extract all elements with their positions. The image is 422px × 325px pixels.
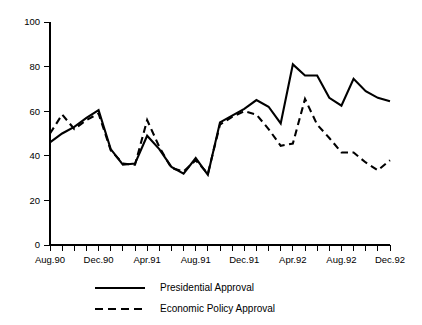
data-series-layer [50, 64, 390, 174]
y-axis: 020406080100 [24, 16, 50, 250]
x-tick-label: Apr.91 [133, 254, 160, 265]
y-tick-label: 100 [24, 16, 40, 27]
approval-trend-chart: 020406080100 Aug.90Dec.90Apr.91Aug.91Dec… [0, 0, 422, 325]
y-tick-label: 80 [29, 61, 40, 72]
x-tick-label: Dec.90 [84, 254, 114, 265]
x-tick-label: Aug.90 [35, 254, 65, 265]
legend-label-economic-policy-approval: Economic Policy Approval [160, 303, 275, 314]
y-tick-label: 60 [29, 106, 40, 117]
x-tick-label: Dec.92 [375, 254, 405, 265]
legend-label-presidential-approval: Presidential Approval [160, 282, 254, 293]
y-tick-label: 0 [35, 239, 40, 250]
chart-legend: Presidential ApprovalEconomic Policy App… [95, 282, 275, 314]
y-axis-ticks: 020406080100 [24, 16, 50, 250]
y-tick-label: 20 [29, 195, 40, 206]
series-line-presidential-approval [50, 64, 390, 174]
x-tick-label: Aug.91 [181, 254, 211, 265]
series-line-economic-policy-approval [50, 99, 390, 174]
x-tick-label: Dec.91 [229, 254, 259, 265]
x-axis: Aug.90Dec.90Apr.91Aug.91Dec.91Apr.92Aug.… [35, 245, 405, 265]
x-axis-tick-labels: Aug.90Dec.90Apr.91Aug.91Dec.91Apr.92Aug.… [35, 254, 405, 265]
x-tick-label: Aug.92 [326, 254, 356, 265]
chart-canvas: 020406080100 Aug.90Dec.90Apr.91Aug.91Dec… [0, 0, 422, 325]
y-tick-label: 40 [29, 150, 40, 161]
x-tick-label: Apr.92 [279, 254, 306, 265]
x-axis-ticks [50, 245, 390, 251]
